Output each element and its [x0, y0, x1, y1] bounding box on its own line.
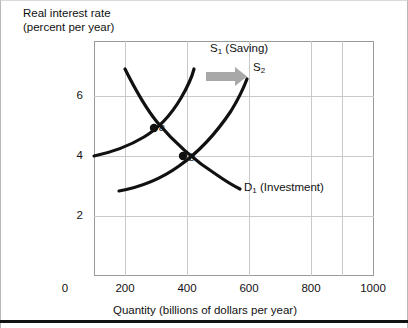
xtick-label-1000: 1000 [350, 282, 396, 294]
curve-label-s1-letter: S [210, 42, 218, 54]
y-axis-title: Real interest rate (percent per year) [23, 6, 263, 34]
curve-label-d1-suffix: (Investment) [257, 181, 324, 193]
gridline-x-200 [125, 41, 126, 276]
curve-label-s1: S1 (Saving) [210, 42, 268, 56]
chart-figure: Real interest rate (percent per year) 6 … [0, 0, 408, 328]
ytick-label-4: 4 [61, 149, 83, 161]
point-label-b: b [189, 151, 195, 163]
gridline-y-2 [94, 216, 374, 217]
x-axis-title: Quantity (billions of dollars per year) [1, 304, 408, 316]
xtick-label-0: 0 [42, 282, 88, 294]
curve-label-s1-suffix: (Saving) [222, 42, 268, 54]
plot-area [94, 41, 374, 276]
ytick-label-6: 6 [61, 89, 83, 101]
gridline-y-4 [94, 156, 374, 157]
ytick-label-2: 2 [61, 209, 83, 221]
gridline-x-600 [249, 41, 250, 276]
xtick-label-800: 800 [288, 282, 334, 294]
xtick-label-600: 600 [226, 282, 272, 294]
curve-label-s2: S2 [253, 61, 265, 75]
xtick-label-400: 400 [164, 282, 210, 294]
curve-label-s2-letter: S [253, 61, 261, 73]
gridline-y-6 [94, 96, 374, 97]
gridline-x-1000 [342, 41, 343, 276]
plot-frame [94, 41, 374, 276]
point-label-a: a [159, 121, 165, 133]
xtick-label-200: 200 [102, 282, 148, 294]
figure-bottom-rule [0, 320, 408, 323]
curve-label-s2-subscript: 2 [261, 66, 265, 75]
curve-label-d1: D1 (Investment) [244, 181, 324, 195]
gridline-x-800 [311, 41, 312, 276]
gridline-x-400 [187, 41, 188, 276]
